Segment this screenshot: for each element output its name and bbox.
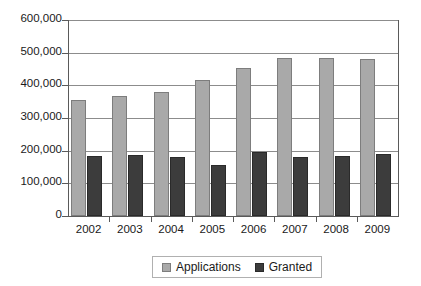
y-axis-tick-label: 200,000 [0,143,62,155]
legend-item-granted: Granted [255,260,312,274]
x-axis-tick-label: 2008 [316,223,357,235]
bar-applications [360,59,375,216]
x-axis-tick-label: 2005 [192,223,233,235]
legend-label-applications: Applications [176,260,241,274]
bar-applications [236,68,251,216]
y-axis-labels: 0100,000200,000300,000400,000500,000600,… [0,0,62,286]
y-axis-tick-label: 400,000 [0,77,62,89]
y-axis-tick-label: 300,000 [0,110,62,122]
x-axis-tick-mark [151,217,152,222]
bar-applications [112,96,127,216]
legend-swatch-applications [162,263,171,272]
x-axis-tick-label: 2009 [357,223,398,235]
bar-granted [128,155,143,216]
y-axis-tick-label: 0 [0,208,62,220]
right-axis-line [398,20,399,217]
bar-granted [211,165,226,216]
x-axis-tick-mark [274,217,275,222]
bar-applications [319,58,334,216]
x-axis-tick-label: 2004 [151,223,192,235]
bar-applications [195,80,210,216]
plot-area [68,20,398,216]
x-axis-tick-mark [192,217,193,222]
bar-applications [277,58,292,216]
y-axis-tick-label: 600,000 [0,12,62,24]
y-axis-tick-label: 100,000 [0,175,62,187]
bar-granted [335,156,350,216]
x-axis-tick-label: 2003 [109,223,150,235]
y-axis-line [68,20,69,217]
x-axis-tick-label: 2006 [233,223,274,235]
gridline [68,53,398,54]
chart-legend: Applications Granted [152,256,322,278]
legend-item-applications: Applications [162,260,241,274]
bar-granted [87,156,102,216]
x-axis-tick-mark [233,217,234,222]
gridline [68,20,398,21]
bar-applications [154,92,169,216]
x-axis-tick-label: 2007 [274,223,315,235]
x-axis-tick-mark [357,217,358,222]
bar-granted [376,154,391,216]
legend-label-granted: Granted [269,260,312,274]
y-axis-tick-label: 500,000 [0,45,62,57]
x-axis-tick-mark [316,217,317,222]
x-axis-tick-mark [109,217,110,222]
x-axis-tick-label: 2002 [68,223,109,235]
legend-swatch-granted [255,263,264,272]
bar-applications [71,100,86,216]
bar-granted [293,157,308,216]
bar-granted [170,157,185,216]
bar-granted [252,152,267,216]
bar-chart: 0100,000200,000300,000400,000500,000600,… [0,0,421,286]
gridline [68,85,398,86]
